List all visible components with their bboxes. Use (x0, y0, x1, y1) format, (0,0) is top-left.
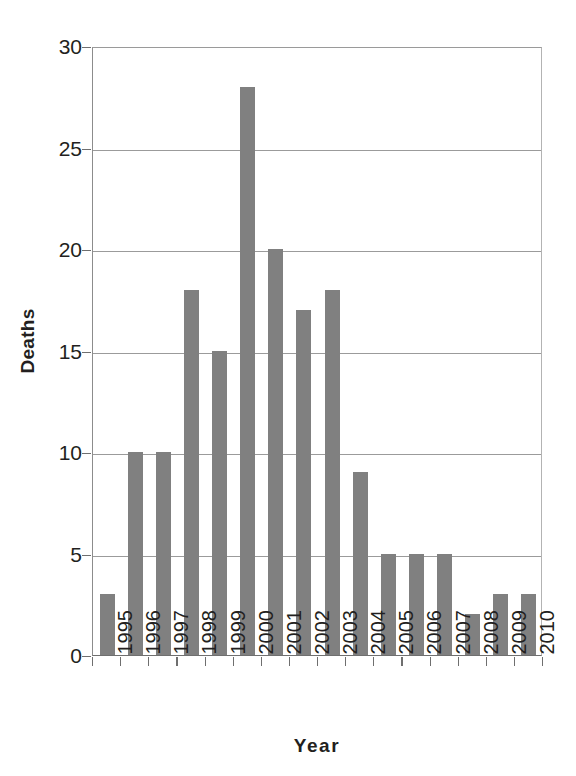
x-tick-label-1997: 1997 (171, 610, 191, 672)
x-tick-label-2006: 2006 (424, 610, 444, 672)
y-tick-mark-5 (82, 555, 91, 556)
y-tick-mark-10 (82, 453, 91, 454)
bar-2001[interactable] (268, 249, 283, 655)
bar-2000[interactable] (240, 87, 255, 655)
gridline-15 (93, 353, 541, 354)
x-tick-label-1995: 1995 (115, 610, 135, 672)
x-tick-label-1998: 1998 (199, 610, 219, 672)
y-tick-label-30: 30 (36, 36, 82, 57)
x-tick-label-2010: 2010 (537, 610, 557, 672)
bar-2003[interactable] (325, 290, 340, 655)
x-tick-label-2009: 2009 (509, 610, 529, 672)
bar-chart-figure: Deaths 051015202530 19951996199719981999… (0, 0, 576, 776)
x-tick-label-1999: 1999 (228, 610, 248, 672)
y-tick-label-20: 20 (36, 239, 82, 260)
y-tick-label-15: 15 (36, 341, 82, 362)
x-tick-label-2007: 2007 (453, 610, 473, 672)
y-tick-label-25: 25 (36, 138, 82, 159)
x-tick-label-2002: 2002 (312, 610, 332, 672)
x-tick-label-2001: 2001 (284, 610, 304, 672)
x-tick-label-2004: 2004 (368, 610, 388, 672)
bar-2002[interactable] (296, 310, 311, 655)
y-tick-mark-15 (82, 352, 91, 353)
y-tick-mark-25 (82, 149, 91, 150)
x-tick-label-1996: 1996 (143, 610, 163, 672)
gridline-25 (93, 150, 541, 151)
x-axis-title: Year (92, 735, 542, 757)
y-tick-label-0: 0 (36, 645, 82, 666)
x-tick-label-2005: 2005 (396, 610, 416, 672)
bar-1995[interactable] (100, 594, 115, 655)
y-tick-mark-0 (82, 656, 91, 657)
plot-area (92, 47, 542, 656)
x-tick-label-2008: 2008 (481, 610, 501, 672)
x-tick-label-2003: 2003 (340, 610, 360, 672)
y-tick-label-10: 10 (36, 442, 82, 463)
y-tick-mark-20 (82, 250, 91, 251)
gridline-20 (93, 251, 541, 252)
bar-1998[interactable] (184, 290, 199, 655)
y-axis-tick-labels: 051015202530 (30, 47, 82, 656)
y-tick-mark-30 (82, 47, 91, 48)
y-tick-label-5: 5 (36, 544, 82, 565)
x-tick-label-2000: 2000 (256, 610, 276, 672)
x-tick-mark-0 (92, 657, 93, 666)
